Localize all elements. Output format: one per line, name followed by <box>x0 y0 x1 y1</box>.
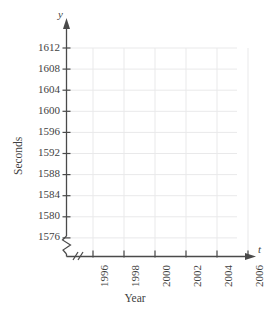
x-tick-label: 2002 <box>191 265 203 287</box>
x-tick-label: 1996 <box>98 265 110 287</box>
y-axis-arrowhead <box>63 18 70 29</box>
x-axis-title: Year <box>0 292 270 304</box>
x-axis-arrowhead <box>245 253 256 260</box>
y-tick-label: 1596 <box>20 125 60 137</box>
y-tick-label: 1592 <box>20 146 60 158</box>
gridlines <box>67 48 249 257</box>
y-tick-label: 1576 <box>20 230 60 242</box>
y-tick-label: 1580 <box>20 209 60 221</box>
x-tick-label: 1998 <box>129 265 141 287</box>
y-tick-label: 1608 <box>20 62 60 74</box>
y-axis-title: Seconds <box>12 137 24 175</box>
t-variable-label: t <box>258 243 261 255</box>
x-tick-label: 2006 <box>253 265 265 287</box>
x-tick-label: 2004 <box>222 265 234 287</box>
y-tick-label: 1588 <box>20 167 60 179</box>
y-tick-label: 1584 <box>20 188 60 200</box>
y-tick-label: 1604 <box>20 83 60 95</box>
x-tick-label: 2000 <box>160 265 172 287</box>
y-variable-label: y <box>58 8 63 20</box>
y-axis-break-icon <box>63 236 71 254</box>
y-tick-label: 1612 <box>20 41 60 53</box>
chart-figure: 1612160816041600159615921588158415801576… <box>0 0 270 316</box>
y-tick-label: 1600 <box>20 104 60 116</box>
